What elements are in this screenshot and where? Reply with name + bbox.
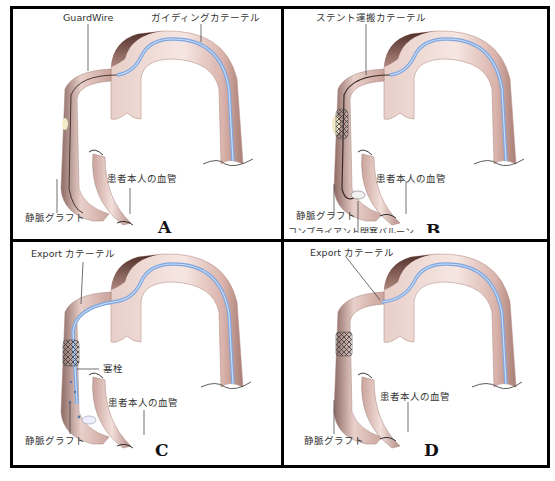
label-guiding-catheter: ガイディングカテーテル [151,13,260,23]
label-native-vessel: 患者本人の血管 [376,174,446,184]
label-export-catheter: Export カテーテル [31,249,115,259]
panel-letter: D [424,442,439,459]
panel-letter: A [158,219,171,233]
label-embolus: 塞栓 [103,364,123,374]
label-occlusion-balloon: コンプライアント閉塞バルーン [288,228,414,233]
panel-d: Export カテーテル 患者本人の血管 静脈グラフト D [284,242,552,466]
panel-a: GuardWire ガイディングカテーテル 患者本人の血管 静脈グラフト A [13,9,281,233]
label-vein-graft: 静脈グラフト [25,436,85,446]
panel-c: Export カテーテル 塞栓 患者本人の血管 静脈グラフト C [13,242,281,466]
label-export-catheter: Export カテーテル [310,248,394,258]
panel-letter: C [155,442,169,459]
panel-b: ステント運搬カテーテル 患者本人の血管 静脈グラフト コンプライアント閉塞バルー… [284,9,552,233]
vessel-illustration [13,9,281,233]
vessel-illustration [284,242,552,466]
label-native-vessel: 患者本人の血管 [380,392,450,402]
label-guardwire: GuardWire [63,13,113,23]
vessel-illustration [13,242,281,466]
label-native-vessel: 患者本人の血管 [107,174,177,184]
label-stent-delivery-catheter: ステント運搬カテーテル [316,13,426,23]
label-vein-graft: 静脈グラフト [304,436,364,446]
panel-letter: B [426,222,440,233]
label-native-vessel: 患者本人の血管 [108,398,178,408]
label-vein-graft: 静脈グラフト [25,213,85,223]
label-vein-graft: 静脈グラフト [296,211,356,221]
vessel-illustration [284,9,552,233]
